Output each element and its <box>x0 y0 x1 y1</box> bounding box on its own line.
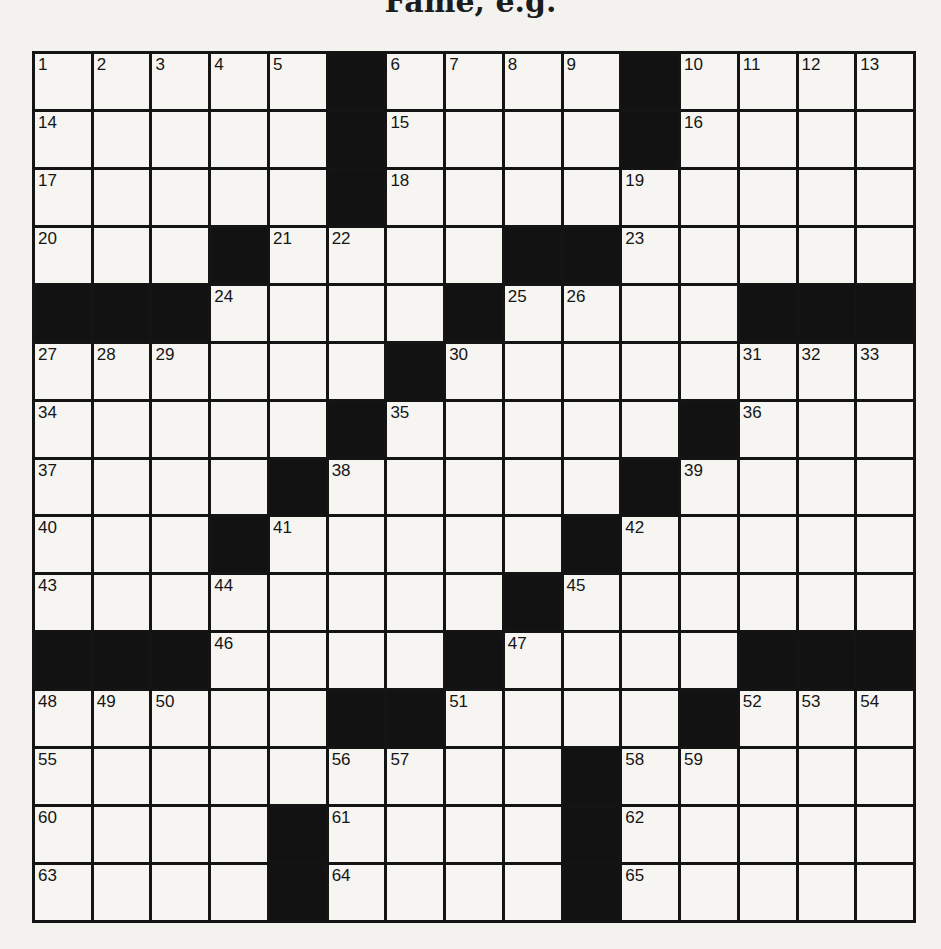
grid-cell[interactable] <box>740 460 796 515</box>
grid-cell[interactable]: 44 <box>211 575 267 630</box>
grid-cell[interactable] <box>564 170 620 225</box>
grid-cell[interactable]: 51 <box>446 691 502 746</box>
grid-cell[interactable] <box>94 170 150 225</box>
grid-cell[interactable] <box>799 865 855 920</box>
grid-cell[interactable] <box>211 865 267 920</box>
grid-cell[interactable] <box>740 807 796 862</box>
grid-cell[interactable] <box>94 575 150 630</box>
grid-cell[interactable] <box>505 807 561 862</box>
grid-cell[interactable] <box>446 228 502 283</box>
grid-cell[interactable]: 50 <box>152 691 208 746</box>
grid-cell[interactable]: 22 <box>329 228 385 283</box>
grid-cell[interactable] <box>152 575 208 630</box>
grid-cell[interactable] <box>94 112 150 167</box>
grid-cell[interactable] <box>505 749 561 804</box>
grid-cell[interactable] <box>740 517 796 572</box>
grid-cell[interactable]: 19 <box>622 170 678 225</box>
grid-cell[interactable] <box>270 575 326 630</box>
grid-cell[interactable]: 16 <box>681 112 737 167</box>
grid-cell[interactable] <box>94 402 150 457</box>
grid-cell[interactable] <box>211 112 267 167</box>
grid-cell[interactable]: 35 <box>387 402 443 457</box>
grid-cell[interactable]: 55 <box>35 749 91 804</box>
grid-cell[interactable]: 14 <box>35 112 91 167</box>
grid-cell[interactable] <box>681 228 737 283</box>
grid-cell[interactable]: 41 <box>270 517 326 572</box>
grid-cell[interactable] <box>681 575 737 630</box>
grid-cell[interactable] <box>505 517 561 572</box>
grid-cell[interactable] <box>211 170 267 225</box>
grid-cell[interactable] <box>152 807 208 862</box>
grid-cell[interactable] <box>799 112 855 167</box>
grid-cell[interactable] <box>270 691 326 746</box>
grid-cell[interactable] <box>505 344 561 399</box>
grid-cell[interactable] <box>564 460 620 515</box>
grid-cell[interactable]: 30 <box>446 344 502 399</box>
grid-cell[interactable] <box>446 170 502 225</box>
grid-cell[interactable] <box>446 749 502 804</box>
grid-cell[interactable] <box>152 517 208 572</box>
grid-cell[interactable] <box>270 344 326 399</box>
grid-cell[interactable] <box>622 344 678 399</box>
grid-cell[interactable]: 15 <box>387 112 443 167</box>
grid-cell[interactable]: 39 <box>681 460 737 515</box>
grid-cell[interactable] <box>857 170 913 225</box>
grid-cell[interactable] <box>152 228 208 283</box>
grid-cell[interactable] <box>622 575 678 630</box>
grid-cell[interactable] <box>505 170 561 225</box>
grid-cell[interactable]: 57 <box>387 749 443 804</box>
grid-cell[interactable] <box>681 170 737 225</box>
grid-cell[interactable] <box>857 460 913 515</box>
grid-cell[interactable]: 48 <box>35 691 91 746</box>
grid-cell[interactable] <box>740 575 796 630</box>
grid-cell[interactable] <box>387 460 443 515</box>
grid-cell[interactable]: 2 <box>94 54 150 109</box>
grid-cell[interactable]: 25 <box>505 286 561 341</box>
grid-cell[interactable] <box>857 402 913 457</box>
grid-cell[interactable]: 64 <box>329 865 385 920</box>
grid-cell[interactable]: 54 <box>857 691 913 746</box>
grid-cell[interactable] <box>387 865 443 920</box>
grid-cell[interactable]: 8 <box>505 54 561 109</box>
grid-cell[interactable]: 43 <box>35 575 91 630</box>
grid-cell[interactable] <box>622 633 678 688</box>
grid-cell[interactable] <box>152 749 208 804</box>
grid-cell[interactable] <box>505 112 561 167</box>
grid-cell[interactable] <box>329 344 385 399</box>
grid-cell[interactable] <box>857 749 913 804</box>
grid-cell[interactable] <box>387 286 443 341</box>
grid-cell[interactable]: 26 <box>564 286 620 341</box>
grid-cell[interactable] <box>152 865 208 920</box>
grid-cell[interactable]: 38 <box>329 460 385 515</box>
grid-cell[interactable] <box>152 170 208 225</box>
grid-cell[interactable]: 31 <box>740 344 796 399</box>
grid-cell[interactable]: 21 <box>270 228 326 283</box>
grid-cell[interactable] <box>622 286 678 341</box>
grid-cell[interactable] <box>740 228 796 283</box>
grid-cell[interactable] <box>564 112 620 167</box>
grid-cell[interactable]: 29 <box>152 344 208 399</box>
grid-cell[interactable]: 23 <box>622 228 678 283</box>
grid-cell[interactable]: 11 <box>740 54 796 109</box>
grid-cell[interactable] <box>799 517 855 572</box>
grid-cell[interactable]: 40 <box>35 517 91 572</box>
grid-cell[interactable] <box>740 170 796 225</box>
grid-cell[interactable] <box>681 286 737 341</box>
grid-cell[interactable] <box>94 807 150 862</box>
grid-cell[interactable] <box>387 228 443 283</box>
grid-cell[interactable] <box>622 691 678 746</box>
grid-cell[interactable]: 13 <box>857 54 913 109</box>
grid-cell[interactable]: 46 <box>211 633 267 688</box>
grid-cell[interactable] <box>387 517 443 572</box>
grid-cell[interactable] <box>211 344 267 399</box>
grid-cell[interactable] <box>799 228 855 283</box>
grid-cell[interactable] <box>681 344 737 399</box>
grid-cell[interactable] <box>564 691 620 746</box>
grid-cell[interactable]: 24 <box>211 286 267 341</box>
grid-cell[interactable] <box>211 807 267 862</box>
grid-cell[interactable] <box>211 749 267 804</box>
grid-cell[interactable] <box>857 228 913 283</box>
grid-cell[interactable]: 63 <box>35 865 91 920</box>
grid-cell[interactable] <box>387 807 443 862</box>
grid-cell[interactable] <box>94 865 150 920</box>
